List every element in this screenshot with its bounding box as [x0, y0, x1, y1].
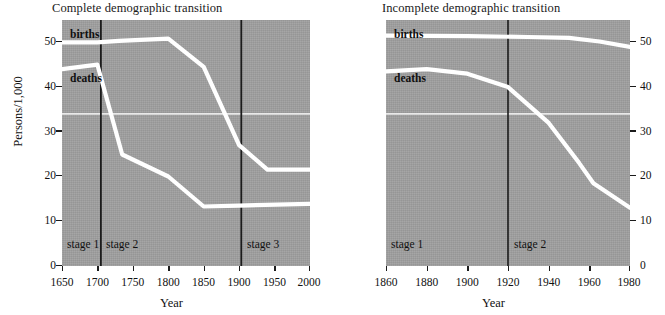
- series-line-deaths-left: [62, 65, 310, 207]
- series-line-births-left: [62, 39, 310, 170]
- x-tick-label-1920: 1920: [486, 276, 530, 288]
- x-tick-mark-2000: [309, 266, 310, 271]
- demographic-transition-figure: Complete demographic transition Persons/…: [0, 0, 665, 315]
- x-axis-label-right: Year: [482, 296, 505, 312]
- x-tick-mark-1900: [467, 266, 468, 271]
- plot-svg-left: [62, 20, 310, 266]
- series-label-births-left: births: [70, 28, 99, 40]
- x-tick-mark-1920: [508, 266, 509, 271]
- x-tick-mark-1900: [239, 266, 240, 271]
- x-tick-mark-1950: [274, 266, 275, 271]
- x-tick-mark-1860: [386, 266, 387, 271]
- x-tick-label-1860: 1860: [364, 276, 408, 288]
- plot-area-right: births deaths stage 1 stage 2: [386, 20, 630, 266]
- y-tick-label-0-left: 0: [30, 259, 56, 271]
- y-tick-label-20-left: 20: [30, 169, 56, 181]
- y-tick-label-40-right: 40: [640, 80, 665, 92]
- chart-title-right: Incomplete demographic transition: [382, 1, 560, 16]
- chart-panel-incomplete-transition: Incomplete demographic transition births…: [330, 0, 665, 315]
- x-tick-label-2000: 2000: [287, 276, 331, 288]
- y-tick-mark-50-right: [630, 41, 636, 42]
- x-tick-mark-1650: [62, 266, 63, 271]
- series-label-deaths-left: deaths: [70, 72, 102, 84]
- y-tick-label-50-left: 50: [30, 35, 56, 47]
- y-tick-label-10-right: 10: [640, 214, 665, 226]
- stage-label-2-left: stage 2: [106, 238, 138, 250]
- y-tick-mark-40-right: [630, 86, 636, 87]
- x-tick-label-1960: 1960: [567, 276, 611, 288]
- y-tick-label-40-left: 40: [30, 80, 56, 92]
- x-tick-mark-1700: [97, 266, 98, 271]
- plot-area-left: births deaths stage 1 stage 2 stage 3: [62, 20, 310, 266]
- stage-label-1-left: stage 1: [67, 238, 99, 250]
- x-tick-mark-1960: [589, 266, 590, 271]
- y-tick-label-0-right: 0: [640, 259, 665, 271]
- y-tick-label-10-left: 10: [30, 214, 56, 226]
- x-tick-label-1880: 1880: [405, 276, 449, 288]
- x-tick-mark-1940: [549, 266, 550, 271]
- y-tick-label-20-right: 20: [640, 169, 665, 181]
- series-label-births-right: births: [394, 28, 423, 40]
- x-tick-label-1980: 1980: [607, 276, 651, 288]
- x-tick-mark-1850: [204, 266, 205, 271]
- y-tick-label-50-right: 50: [640, 35, 665, 47]
- chart-panel-complete-transition: Complete demographic transition Persons/…: [0, 0, 330, 315]
- x-tick-mark-1880: [427, 266, 428, 271]
- y-tick-label-30-right: 30: [640, 125, 665, 137]
- chart-title-left: Complete demographic transition: [52, 1, 222, 16]
- plot-svg-right: [386, 20, 630, 266]
- y-tick-mark-30-right: [630, 130, 636, 131]
- series-label-deaths-right: deaths: [394, 72, 426, 84]
- y-tick-mark-20-right: [630, 175, 636, 176]
- stage-label-2-right: stage 2: [514, 238, 546, 250]
- x-tick-mark-1980: [629, 266, 630, 271]
- stage-label-1-right: stage 1: [391, 238, 423, 250]
- x-axis-label-left: Year: [160, 296, 183, 312]
- x-tick-label-1940: 1940: [527, 276, 571, 288]
- x-tick-mark-1800: [168, 266, 169, 271]
- x-tick-label-1900: 1900: [445, 276, 489, 288]
- stage-label-3-left: stage 3: [247, 238, 279, 250]
- x-tick-mark-1750: [133, 266, 134, 271]
- y-axis-label-left: Persons/1,000: [11, 64, 26, 160]
- y-tick-label-30-left: 30: [30, 125, 56, 137]
- y-tick-mark-10-right: [630, 220, 636, 221]
